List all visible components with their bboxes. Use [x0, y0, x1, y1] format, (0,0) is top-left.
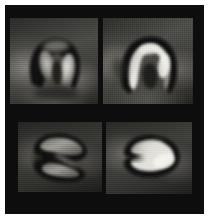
panel-top-left-myocardium [10, 18, 98, 104]
panel-top-left[interactable]: Top left slice [10, 18, 98, 104]
panel-bottom-left-myocardium [18, 122, 102, 192]
panel-bottom-right[interactable]: Bottom right slice [106, 122, 192, 194]
figure-root: Top left slice [0, 0, 210, 220]
panel-top-right-myocardium [103, 18, 193, 104]
panel-top-right[interactable]: Top right slice [103, 18, 193, 104]
panel-bottom-left[interactable]: Bottom left slice [18, 122, 102, 192]
panel-bottom-right-myocardium [106, 122, 192, 194]
montage-frame: Top left slice [5, 5, 204, 214]
figure-title: Cardiac myocardial perfusion montage [0, 0, 1, 1]
